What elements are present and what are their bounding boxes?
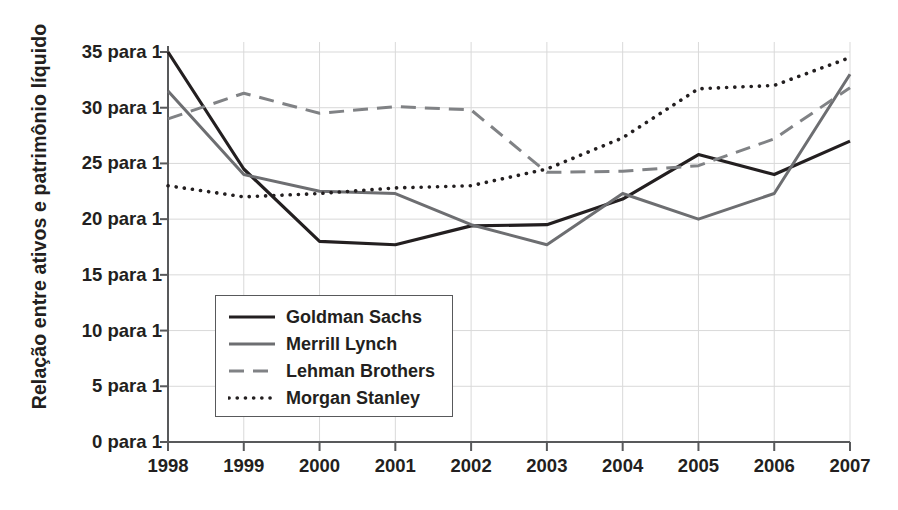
- series-line-lehman-brothers: [168, 88, 850, 173]
- line-chart: Relação entre ativos e patrimônio líquid…: [0, 0, 898, 510]
- legend-item: Lehman Brothers: [228, 357, 452, 384]
- legend-label: Morgan Stanley: [286, 389, 420, 407]
- legend-swatch-goldman-sachs: [228, 310, 276, 324]
- legend-swatch-merrill-lynch: [228, 337, 276, 351]
- legend-label: Merrill Lynch: [286, 335, 397, 353]
- data-series: [168, 52, 850, 245]
- legend-swatch-lehman-brothers: [228, 364, 276, 378]
- legend-label: Lehman Brothers: [286, 362, 435, 380]
- plot-area: [0, 0, 898, 510]
- legend-label: Goldman Sachs: [286, 308, 422, 326]
- legend-swatch-morgan-stanley: [228, 391, 276, 405]
- legend-item: Goldman Sachs: [228, 303, 452, 330]
- legend: Goldman SachsMerrill LynchLehman Brother…: [215, 295, 453, 417]
- legend-item: Merrill Lynch: [228, 330, 452, 357]
- series-line-morgan-stanley: [168, 58, 850, 197]
- legend-item: Morgan Stanley: [228, 384, 452, 411]
